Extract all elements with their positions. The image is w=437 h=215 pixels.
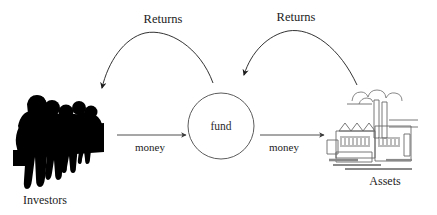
node-label-fund: fund (210, 121, 231, 133)
edge-fund-to-investors (102, 32, 213, 88)
node-label-assets: Assets (369, 175, 400, 187)
edge-label-returns-left: Returns (144, 13, 183, 26)
factory-icon (327, 90, 418, 169)
node-label-investors: Investors (23, 194, 67, 206)
edge-label-money-left: money (135, 142, 165, 153)
edge-label-returns-right: Returns (277, 11, 316, 24)
flow-diagram: Returns Returns money money fund Investo… (0, 0, 437, 215)
edge-label-money-right: money (269, 142, 299, 153)
crowd-silhouette-icon (13, 95, 104, 189)
edge-assets-to-fund (244, 31, 357, 85)
